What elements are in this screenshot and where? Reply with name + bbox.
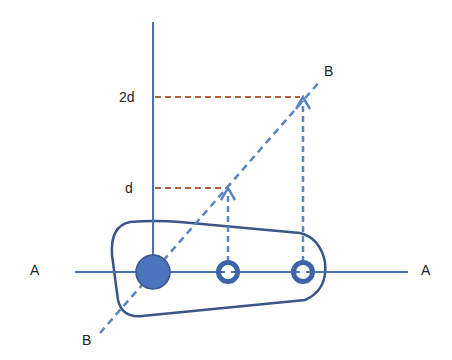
- hole-d-center: [225, 269, 231, 275]
- label-b-bottom: B: [82, 332, 91, 348]
- hole-2d-center: [300, 269, 306, 275]
- label-a-right: A: [421, 262, 430, 278]
- label-d: d: [125, 180, 133, 196]
- diagram-canvas: [0, 0, 452, 360]
- label-2d: 2d: [119, 89, 135, 105]
- pivot-circle: [136, 255, 170, 289]
- label-b-top: B: [324, 63, 333, 79]
- label-a-left: A: [30, 262, 39, 278]
- axis-b-line: [100, 80, 321, 333]
